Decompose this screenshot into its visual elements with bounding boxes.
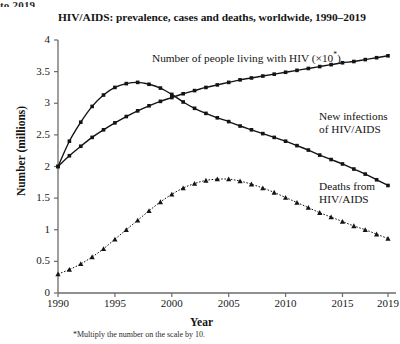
data-point-marker-triangle [226,177,231,182]
series-label-deaths-line1: Deaths from [319,180,375,193]
data-point-marker-square [68,154,72,158]
data-point-marker-square [68,139,72,143]
data-point-marker-square [375,178,379,182]
data-point-marker-square [147,82,151,86]
series-label-deaths-line2: HIV/AIDS [319,193,375,206]
data-point-marker-square [216,83,220,87]
chart-figure: to 2019. HIV/AIDS: prevalence, cases and… [0,0,400,344]
data-point-marker-square [375,56,379,60]
data-point-marker-triangle [283,195,288,200]
data-point-marker-square [363,172,367,176]
data-point-marker-triangle [317,210,322,215]
data-point-marker-square [250,76,254,80]
series-label-new-infections-line1: New infections [319,110,388,123]
data-point-marker-square [159,86,163,90]
data-point-marker-square [102,93,106,97]
x-tick-label: 1995 [90,297,140,309]
data-point-marker-square [124,115,128,119]
data-point-marker-triangle [260,185,265,190]
axis-lines [58,40,396,293]
series-label-new-infections-line2: of HIV/AIDS [319,123,388,136]
data-point-marker-square [170,93,174,97]
data-point-marker-square [204,112,208,116]
data-point-marker-square [386,184,390,188]
data-point-marker-square [307,148,311,152]
data-point-marker-square [79,120,83,124]
data-point-marker-square [193,107,197,111]
y-tick-label: 4 [10,33,50,45]
data-point-marker-square [238,124,242,128]
data-point-marker-square [216,116,220,120]
data-point-marker-square [341,162,345,166]
data-point-marker-square [272,136,276,140]
data-point-marker-square [181,100,185,104]
data-point-marker-square [124,82,128,86]
data-series-layer [55,54,390,276]
series-label-deaths: Deaths from HIV/AIDS [319,180,375,205]
data-point-marker-square [284,139,288,143]
data-point-marker-square [159,100,163,104]
data-point-marker-square [363,58,367,62]
x-tick-label: 2019 [363,297,400,309]
data-point-marker-square [227,81,231,85]
y-tick-label: 3.5 [10,65,50,77]
data-point-marker-triangle [203,178,208,183]
data-point-marker-square [79,144,83,148]
x-tick-label: 1990 [33,297,83,309]
data-point-marker-triangle [351,223,356,228]
y-tick-label: 0.5 [10,254,50,266]
data-point-marker-triangle [340,219,345,224]
data-point-marker-square [341,61,345,65]
data-point-marker-square [284,70,288,74]
data-point-marker-square [295,144,299,148]
data-point-marker-triangle [181,185,186,190]
data-point-marker-square [386,54,390,58]
data-point-marker-square [238,78,242,82]
data-point-marker-square [147,104,151,108]
data-point-marker-square [261,132,265,136]
x-tick-label: 2005 [204,297,254,309]
data-point-marker-square [90,105,94,109]
data-point-marker-triangle [78,261,83,266]
data-point-marker-square [113,86,117,90]
data-point-marker-square [329,158,333,162]
data-point-marker-square [318,153,322,157]
data-point-marker-square [227,120,231,124]
series-label-prevalence: Number of people living with HIV (×10*) [152,49,341,64]
data-point-marker-square [261,74,265,78]
data-point-marker-triangle [294,200,299,205]
x-axis-title: Year [190,316,213,328]
data-point-marker-triangle [90,254,95,259]
data-point-marker-triangle [146,208,151,213]
data-point-marker-square [272,72,276,76]
data-point-marker-square [250,128,254,132]
y-tick-label: 3 [10,96,50,108]
x-tick-label: 2010 [261,297,311,309]
data-point-marker-triangle [272,190,277,195]
data-point-marker-square [193,89,197,93]
data-point-marker-triangle [67,267,72,272]
data-point-marker-square [295,69,299,73]
x-tick-label: 2000 [147,297,197,309]
x-tick-label: 2015 [317,297,367,309]
data-point-marker-square [102,128,106,132]
y-tick-label: 1.5 [10,191,50,203]
data-point-marker-square [352,167,356,171]
data-point-marker-square [318,65,322,69]
data-point-marker-square [136,81,140,85]
chart-title: HIV/AIDS: prevalence, cases and deaths, … [58,11,398,23]
data-point-marker-square [113,121,117,125]
y-tick-label: 2.5 [10,128,50,140]
y-tick-label: 2 [10,160,50,172]
data-point-marker-square [307,67,311,71]
data-point-marker-square [170,96,174,100]
data-point-marker-square [90,136,94,140]
chart-footnote: *Multiply the number on the scale by 10. [73,330,205,339]
data-point-marker-square [136,109,140,113]
data-point-marker-square [181,92,185,96]
data-point-marker-square [56,165,60,169]
data-point-marker-triangle [306,205,311,210]
clipped-header-text: to 2019. [0,0,38,7]
data-point-marker-triangle [55,271,60,276]
data-point-marker-square [352,60,356,64]
